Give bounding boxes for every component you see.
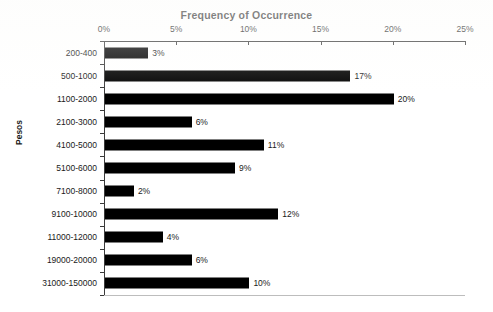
bar-chart: Frequency of Occurrence 0%5%10%15%20%25%… — [0, 0, 493, 312]
bar-value-label: 4% — [167, 232, 179, 242]
y-axis-tick-mark — [100, 295, 104, 296]
bar-row: 5100-60009% — [0, 156, 493, 179]
x-axis-tick-label: 15% — [312, 24, 329, 34]
category-label: 5100-6000 — [56, 163, 97, 173]
bar-value-label: 3% — [152, 48, 164, 58]
bar-value-label: 6% — [196, 255, 208, 265]
x-axis-tick-label: 0% — [98, 24, 110, 34]
category-label: 2100-3000 — [56, 117, 97, 127]
bar-row: 19000-200006% — [0, 249, 493, 272]
category-label: 200-400 — [66, 48, 97, 58]
bar-value-label: 10% — [253, 278, 270, 288]
bar-row: 31000-15000010% — [0, 272, 493, 295]
category-label: 9100-10000 — [52, 209, 97, 219]
category-label: 1100-2000 — [57, 94, 97, 104]
bar-value-label: 20% — [398, 94, 415, 104]
bar-value-label: 9% — [239, 163, 251, 173]
bar-row: 9100-1000012% — [0, 203, 493, 226]
x-axis-tick-label: 20% — [384, 24, 401, 34]
bar-value-label: 11% — [268, 140, 284, 150]
plot-area-bottom-border — [104, 295, 465, 296]
bar — [105, 47, 148, 58]
bar — [105, 186, 134, 197]
bar — [105, 255, 192, 266]
bar-row: 200-4003% — [0, 41, 493, 64]
bar — [105, 116, 192, 127]
bars-layer: 200-4003%500-100017%1100-200020%2100-300… — [0, 41, 493, 295]
bar-value-label: 17% — [354, 71, 371, 81]
x-axis-tick-label: 10% — [240, 24, 257, 34]
category-label: 500-1000 — [61, 71, 97, 81]
bar — [105, 93, 394, 104]
chart-title: Frequency of Occurrence — [0, 9, 493, 21]
bar — [105, 70, 350, 81]
bar-row: 500-100017% — [0, 64, 493, 87]
category-label: 11000-12000 — [48, 232, 97, 242]
bar-row: 2100-30006% — [0, 110, 493, 133]
category-label: 4100-5000 — [56, 140, 97, 150]
x-axis-tick-label: 5% — [170, 24, 182, 34]
bar-row: 7100-80002% — [0, 180, 493, 203]
bar — [105, 139, 264, 150]
category-label: 31000-150000 — [42, 278, 97, 288]
bar — [105, 232, 163, 243]
bar-row: 11000-120004% — [0, 226, 493, 249]
category-label: 19000-20000 — [47, 255, 97, 265]
bar-row: 4100-500011% — [0, 133, 493, 156]
bar-row: 1100-200020% — [0, 87, 493, 110]
bar-value-label: 2% — [138, 186, 150, 196]
x-axis-tick-label: 25% — [456, 24, 473, 34]
x-axis-tick-labels: 0%5%10%15%20%25% — [104, 24, 465, 36]
bar-value-label: 6% — [196, 117, 208, 127]
bar — [105, 162, 235, 173]
category-label: 7100-8000 — [56, 186, 97, 196]
bar — [105, 278, 249, 289]
bar — [105, 209, 278, 220]
bar-value-label: 12% — [282, 209, 299, 219]
